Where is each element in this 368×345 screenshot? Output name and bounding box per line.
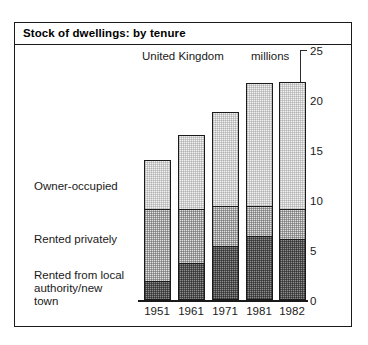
y-tick-25	[300, 50, 307, 51]
bar-segment-rented-privately	[213, 206, 238, 246]
bar-segment-rented-local-authority	[213, 246, 238, 300]
legend-label-rented-local-authority: Rented from local authority/new town	[34, 269, 124, 308]
chart-title: Stock of dwellings: by tenure	[23, 27, 186, 39]
bar-segment-owner-occupied	[280, 83, 305, 209]
legend-label-rented-privately: Rented privately	[34, 233, 117, 246]
bar-segment-owner-occupied	[247, 84, 272, 206]
bar-segment-owner-occupied	[213, 113, 238, 206]
bar-segment-owner-occupied	[145, 161, 170, 209]
bar-segment-rented-local-authority	[280, 239, 305, 300]
x-axis-baseline	[138, 300, 308, 302]
bar-segment-rented-privately	[247, 206, 272, 236]
bar-1961	[178, 135, 205, 300]
bar-segment-rented-local-authority	[247, 236, 272, 300]
title-band: Stock of dwellings: by tenure	[14, 22, 352, 45]
legend-label-owner-occupied: Owner-occupied	[34, 180, 118, 193]
bar-segment-rented-privately	[280, 209, 305, 239]
country-caption: United Kingdom	[142, 50, 224, 62]
bar-1951	[144, 160, 171, 300]
bar-segment-rented-privately	[179, 209, 204, 263]
bar-segment-rented-privately	[145, 209, 170, 281]
bar-segment-rented-local-authority	[145, 281, 170, 300]
x-axis-label-1982: 1982	[272, 305, 312, 317]
y-axis-label-20: 20	[310, 95, 323, 107]
y-axis-label-25: 25	[310, 45, 323, 57]
y-axis-label-15: 15	[310, 145, 323, 157]
y-axis-label-10: 10	[310, 195, 323, 207]
chart-figure: Stock of dwellings: by tenure United Kin…	[0, 0, 368, 345]
bar-1981	[246, 83, 273, 300]
bar-segment-owner-occupied	[179, 136, 204, 209]
y-axis-label-5: 5	[310, 245, 316, 257]
bar-1971	[212, 112, 239, 300]
bar-segment-rented-local-authority	[179, 263, 204, 300]
bar-1982	[279, 82, 306, 300]
units-caption: millions	[251, 50, 289, 62]
